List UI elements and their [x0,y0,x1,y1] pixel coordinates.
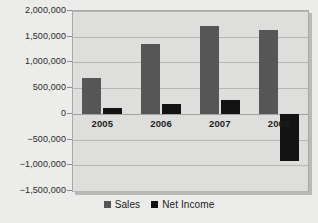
legend-label: Net Income [162,199,214,210]
x-axis-label-2007: 2007 [209,118,231,129]
chart-legend: SalesNet Income [0,199,318,210]
bar-chart: 2005200620072008 2,000,0001,500,0001,000… [0,0,318,223]
y-axis-tick-mark [67,10,72,11]
x-axis-label-2008: 2008 [268,118,290,129]
x-axis-label-2006: 2006 [150,118,172,129]
y-axis-tick-mark [67,36,72,37]
x-axis-label-2005: 2005 [91,118,113,129]
y-axis-tick-mark [67,190,72,191]
y-axis-tick-label: 1,500,000 [25,31,66,41]
y-axis-tick-label: 0 [61,108,66,118]
legend-swatch-icon [104,201,111,208]
plot-area: 2005200620072008 [72,10,309,192]
y-axis-tick-mark [67,139,72,140]
y-axis-tick-mark [67,61,72,62]
y-axis-tick-label: 1,000,000 [25,56,66,66]
y-axis-tick-mark [67,164,72,165]
y-axis-tick-label: −1,500,000 [20,185,66,195]
legend-item-sales[interactable]: Sales [104,199,141,210]
y-axis-tick-mark [67,87,72,88]
y-axis-tick-mark [67,113,72,114]
y-axis-tick-label: 2,000,000 [25,5,66,15]
y-axis-tick-label: −1,000,000 [20,159,66,169]
legend-label: Sales [115,199,141,210]
x-axis-labels-group: 2005200620072008 [73,11,308,191]
gridline [73,191,308,192]
legend-swatch-icon [151,201,158,208]
legend-item-net-income[interactable]: Net Income [151,199,214,210]
y-axis-tick-label: −500,000 [27,134,66,144]
y-axis-tick-label: 500,000 [33,82,66,92]
